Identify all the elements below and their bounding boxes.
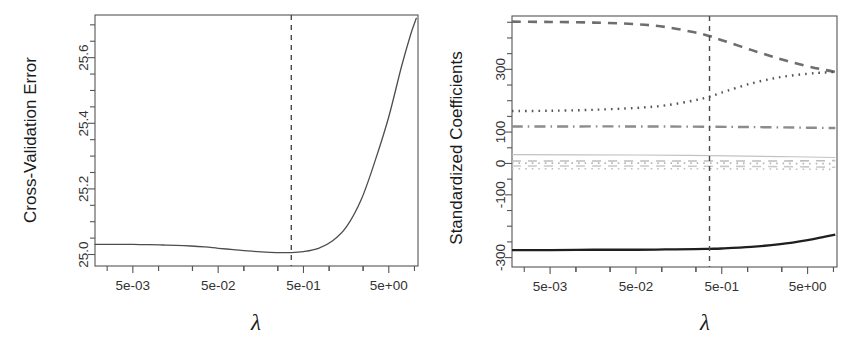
series-coef-dotted-rising xyxy=(512,72,835,111)
coefficient-path-plot-svg: 5e-035e-025e-015e+00-300-1000100300 xyxy=(433,0,865,345)
y-axis-tick-label: 300 xyxy=(493,58,508,81)
series-coef-near-zero-a xyxy=(512,155,835,158)
series-coef-dashdot-flat xyxy=(512,126,835,128)
coefficient-path-panel: 5e-035e-025e-015e+00-300-1000100300 Stan… xyxy=(433,0,865,345)
series-coef-near-zero-e xyxy=(512,169,835,170)
series-Cross-Validation Error xyxy=(95,18,416,252)
series-coef-near-zero-d xyxy=(512,166,835,167)
y-axis-tick-label: 25.4 xyxy=(76,110,91,137)
y-axis-tick-label: -300 xyxy=(493,244,508,271)
plot-frame xyxy=(95,15,418,266)
y-axis-tick-label: 25.6 xyxy=(76,45,91,71)
x-axis-tick-label: 5e+00 xyxy=(370,278,408,293)
x-axis-tick-label: 5e-02 xyxy=(201,278,236,293)
series-coef-near-zero-c xyxy=(512,163,835,164)
series-coef-solid-bottom xyxy=(512,235,835,250)
y-axis-tick-label: -100 xyxy=(493,181,508,208)
y-axis-tick-label: 0 xyxy=(493,160,508,168)
y-axis-tick-label: 25.2 xyxy=(76,176,91,202)
plot-frame xyxy=(512,16,837,267)
figure-canvas: 5e-035e-025e-015e+0025.025.225.425.6 Cro… xyxy=(0,0,865,345)
x-axis-tick-label: 5e-01 xyxy=(705,279,740,294)
x-axis-tick-label: 5e+00 xyxy=(789,279,827,294)
x-axis-tick-label: 5e-03 xyxy=(533,279,568,294)
cv-error-plot-svg: 5e-035e-025e-015e+0025.025.225.425.6 xyxy=(0,0,433,345)
x-axis-tick-label: 5e-01 xyxy=(286,278,321,293)
x-axis-tick-label: 5e-03 xyxy=(116,278,151,293)
y-axis-tick-label: 100 xyxy=(493,121,508,144)
x-axis-tick-label: 5e-02 xyxy=(619,279,654,294)
cv-error-panel: 5e-035e-025e-015e+0025.025.225.425.6 Cro… xyxy=(0,0,433,345)
series-coef-dashed-top xyxy=(512,22,835,72)
y-axis-tick-label: 25.0 xyxy=(76,241,91,267)
